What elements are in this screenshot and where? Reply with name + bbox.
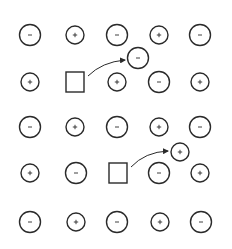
cation-ion bbox=[150, 118, 168, 136]
cation-ion bbox=[21, 73, 39, 91]
cation-ion bbox=[151, 213, 169, 231]
anion-ion bbox=[149, 163, 170, 184]
anion-ion bbox=[190, 25, 211, 46]
cation-ion bbox=[66, 118, 84, 136]
cation-ion bbox=[191, 164, 209, 182]
anion-ion bbox=[149, 72, 170, 93]
cation-ion bbox=[67, 213, 85, 231]
lattice-canvas bbox=[0, 0, 232, 249]
anion-ion bbox=[107, 117, 128, 138]
cation-ion bbox=[66, 26, 84, 44]
anion-ion bbox=[190, 117, 211, 138]
vacancy-square bbox=[109, 163, 127, 183]
anion-ion bbox=[107, 25, 128, 46]
schottky-defect-diagram bbox=[0, 0, 232, 249]
displaced-cation-ion bbox=[171, 143, 189, 161]
displaced-anion-ion bbox=[128, 48, 149, 69]
anion-ion bbox=[20, 25, 41, 46]
vacancy-square bbox=[66, 72, 84, 92]
cation-ion bbox=[108, 73, 126, 91]
cation-ion bbox=[21, 164, 39, 182]
cation-ion bbox=[150, 26, 168, 44]
anion-ion bbox=[20, 117, 41, 138]
anion-ion bbox=[191, 212, 212, 233]
anion-ion bbox=[66, 163, 87, 184]
displaced-ions bbox=[128, 48, 190, 162]
cation-ion bbox=[191, 73, 209, 91]
anion-ion bbox=[20, 212, 41, 233]
ion-lattice bbox=[20, 25, 212, 233]
anion-ion bbox=[107, 212, 128, 233]
